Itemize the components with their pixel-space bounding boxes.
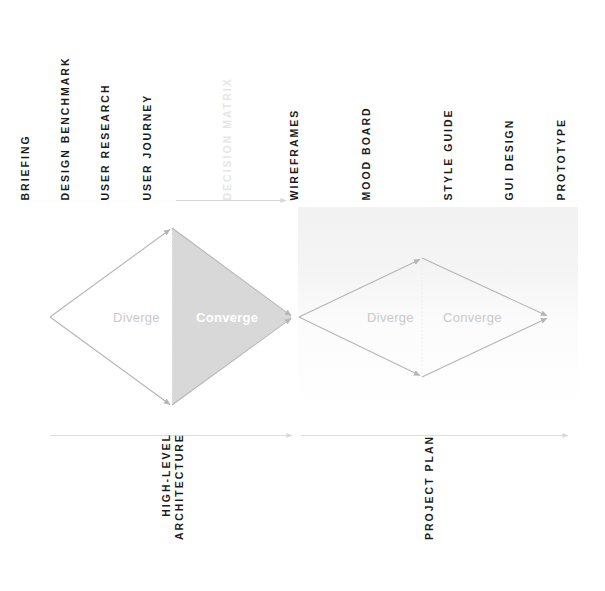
diamond-2-converge-label: Converge: [443, 310, 502, 325]
diamond-1-edge-upper-left: [50, 230, 170, 318]
diamond-2-diverge-label: Diverge: [367, 310, 414, 325]
deliverable-label-project-plan-text: PROJECT PLAN: [423, 435, 435, 540]
diamond-2-edge-upper-right: [422, 258, 547, 316]
deliverable-label-project-plan: PROJECT PLAN: [423, 435, 436, 540]
diamond-2-edge-lower-right: [422, 318, 547, 377]
diamond-2-edge-lower-left: [299, 317, 420, 376]
diamond-1-converge-label: Converge: [196, 310, 258, 325]
diamond-2-edge-upper-left: [299, 259, 420, 317]
deliverable-label-high-level-architecture: HIGH-LEVEL ARCHITECTURE: [160, 433, 186, 540]
diagram-vector-layer: [0, 0, 605, 591]
diamond-1-diverge-label: Diverge: [113, 310, 160, 325]
deliverable-label-line-1: HIGH-LEVEL: [160, 433, 172, 517]
deliverable-label-line-2: ARCHITECTURE: [173, 433, 185, 540]
diamond-1-edge-lower-left: [50, 317, 170, 405]
double-diamond-diagram: BRIEFING DESIGN BENCHMARK USER RESEARCH …: [0, 0, 605, 591]
